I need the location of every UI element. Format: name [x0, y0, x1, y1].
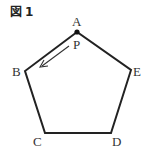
vertex-label-c: C [33, 134, 42, 149]
figure-canvas: 図 1 A P B E C D [0, 0, 150, 159]
point-label-p: P [73, 37, 80, 52]
vertex-label-d: D [112, 134, 121, 149]
vertex-label-e: E [133, 64, 141, 79]
vertex-label-b: B [12, 64, 21, 79]
pentagon-diagram: A P B E C D [0, 0, 150, 159]
point-p-marker [74, 29, 79, 34]
vertex-label-a: A [72, 14, 82, 29]
